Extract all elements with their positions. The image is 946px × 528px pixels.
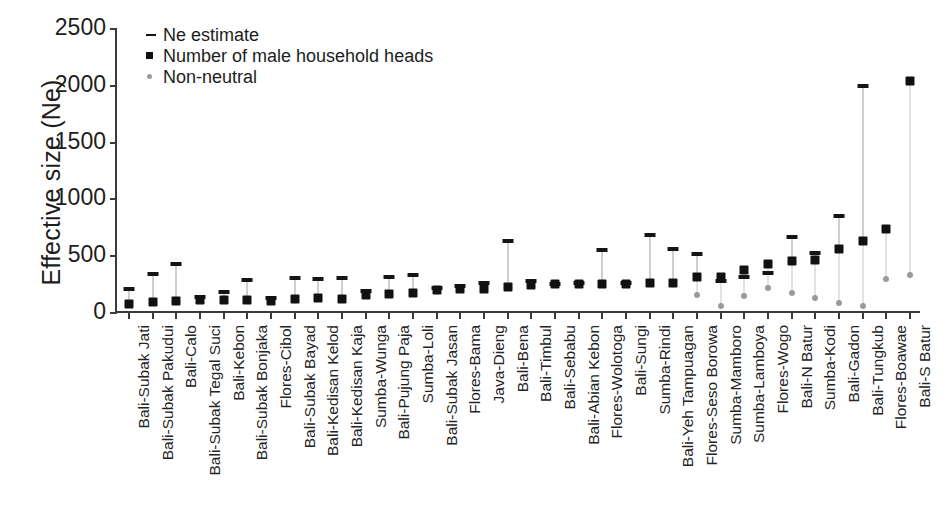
marker-ne-estimate xyxy=(502,239,513,243)
x-tick-mark xyxy=(507,311,509,319)
y-tick-mark xyxy=(110,255,117,257)
legend-item-non-neutral: Non-neutral xyxy=(146,66,433,87)
marker-household-heads xyxy=(290,294,299,303)
connector-stem-non-neutral xyxy=(862,241,864,306)
x-tick-mark xyxy=(672,311,674,319)
household-heads-square-icon xyxy=(146,52,163,59)
x-tick-label: Java-Dieng xyxy=(490,325,508,403)
x-tick-mark xyxy=(199,311,201,319)
x-tick-mark xyxy=(767,311,769,319)
marker-non-neutral xyxy=(718,303,724,309)
x-tick-label: Bali-Tungkub xyxy=(869,325,887,416)
connector-stem xyxy=(175,264,177,301)
legend-label-household-heads: Number of male household heads xyxy=(163,46,433,66)
x-tick-mark xyxy=(459,311,461,319)
marker-household-heads xyxy=(574,280,583,289)
marker-household-heads xyxy=(693,272,702,281)
legend-item-household-heads: Number of male household heads xyxy=(146,45,433,66)
marker-ne-estimate xyxy=(123,287,134,291)
connector-stem xyxy=(507,241,509,287)
x-tick-mark xyxy=(554,311,556,319)
marker-household-heads xyxy=(669,278,678,287)
marker-ne-estimate xyxy=(289,276,300,280)
x-tick-mark xyxy=(152,311,154,319)
x-tick-mark xyxy=(530,311,532,319)
x-tick-label: Bali-Kedisan Kelod xyxy=(324,325,342,456)
marker-ne-estimate xyxy=(810,251,821,255)
marker-ne-estimate xyxy=(242,278,253,282)
marker-household-heads xyxy=(622,279,631,288)
x-tick-mark xyxy=(649,311,651,319)
y-tick-label: 2500 xyxy=(55,14,106,41)
non-neutral-dot-icon xyxy=(146,74,163,79)
legend-label-non-neutral: Non-neutral xyxy=(163,67,257,87)
marker-household-heads xyxy=(906,76,915,85)
marker-household-heads xyxy=(645,279,654,288)
marker-household-heads xyxy=(716,272,725,281)
marker-non-neutral xyxy=(765,285,771,291)
x-tick-label: Sumba-Wunga xyxy=(372,325,390,428)
marker-household-heads xyxy=(882,224,891,233)
marker-household-heads xyxy=(337,295,346,304)
x-tick-label: Flores-Wogo xyxy=(774,325,792,413)
x-tick-label: Sumba-Mamboro xyxy=(727,325,745,445)
legend-label-ne-estimate: Ne estimate xyxy=(163,25,259,45)
marker-household-heads xyxy=(361,291,370,300)
marker-household-heads xyxy=(148,297,157,306)
x-tick-label: Bali-Pujung Paja xyxy=(395,325,413,440)
y-tick-label: 1500 xyxy=(55,128,106,155)
marker-ne-estimate xyxy=(834,214,845,218)
chart-figure: Effective size (Ne) 05001000150020002500… xyxy=(0,0,946,528)
chart-legend: Ne estimate Number of male household hea… xyxy=(146,24,433,87)
x-tick-label: Sumba-Kodi xyxy=(821,325,839,410)
connector-stem-non-neutral xyxy=(814,260,816,298)
marker-ne-estimate xyxy=(763,271,774,275)
x-tick-mark xyxy=(791,311,793,319)
marker-non-neutral xyxy=(860,303,866,309)
x-tick-label: Bali-Calo xyxy=(182,325,200,388)
marker-ne-estimate xyxy=(407,273,418,277)
y-tick-mark xyxy=(110,312,117,314)
connector-stem-non-neutral xyxy=(885,229,887,280)
connector-stem xyxy=(649,235,651,283)
x-tick-mark xyxy=(246,311,248,319)
marker-non-neutral xyxy=(694,292,700,298)
legend-item-ne-estimate: Ne estimate xyxy=(146,24,433,45)
x-tick-mark xyxy=(483,311,485,319)
marker-household-heads xyxy=(172,297,181,306)
marker-ne-estimate xyxy=(739,275,750,279)
y-tick-label: 0 xyxy=(93,298,106,325)
x-tick-mark xyxy=(223,311,225,319)
marker-household-heads xyxy=(527,281,536,290)
x-tick-label: Bali-Gadon xyxy=(845,325,863,403)
x-tick-mark xyxy=(625,311,627,319)
marker-household-heads xyxy=(195,295,204,304)
marker-non-neutral xyxy=(789,290,795,296)
marker-non-neutral xyxy=(812,295,818,301)
x-tick-mark xyxy=(412,311,414,319)
marker-ne-estimate xyxy=(218,290,229,294)
x-tick-label: Flores-Seso Borowa xyxy=(703,325,721,465)
y-tick-mark xyxy=(110,142,117,144)
connector-stem-non-neutral xyxy=(791,261,793,293)
marker-ne-estimate xyxy=(668,247,679,251)
marker-household-heads xyxy=(243,296,252,305)
marker-household-heads xyxy=(479,284,488,293)
marker-household-heads xyxy=(124,299,133,308)
marker-ne-estimate xyxy=(597,248,608,252)
x-tick-mark xyxy=(814,311,816,319)
marker-non-neutral xyxy=(836,300,842,306)
y-tick-label: 2000 xyxy=(55,71,106,98)
x-tick-mark xyxy=(388,311,390,319)
marker-non-neutral xyxy=(883,276,889,282)
x-tick-mark xyxy=(128,311,130,319)
marker-ne-estimate xyxy=(644,233,655,237)
marker-ne-estimate xyxy=(147,272,158,276)
x-tick-label: Flores-Cibol xyxy=(277,325,295,409)
marker-ne-estimate xyxy=(384,275,395,279)
x-tick-mark xyxy=(341,311,343,319)
x-tick-label: Flores-Bama xyxy=(466,325,484,414)
marker-household-heads xyxy=(551,280,560,289)
x-tick-label: Bali-Subak Jati xyxy=(135,325,153,428)
x-tick-mark xyxy=(578,311,580,319)
